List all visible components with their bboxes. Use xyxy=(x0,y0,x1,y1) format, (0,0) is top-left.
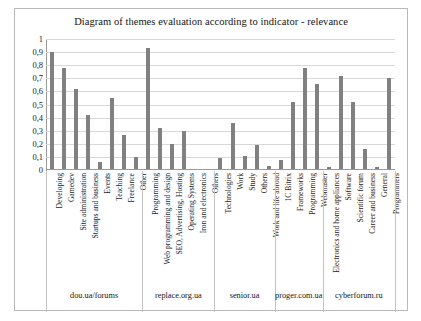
bar-column xyxy=(239,39,251,170)
bar xyxy=(363,149,367,170)
group-separator xyxy=(142,171,143,312)
bar-column xyxy=(371,39,383,170)
bar xyxy=(122,135,126,170)
bar-column xyxy=(58,39,70,170)
bar-column xyxy=(299,39,311,170)
bar-column xyxy=(166,39,178,170)
bar-column xyxy=(311,39,323,170)
plot-area xyxy=(46,39,395,170)
bar xyxy=(170,144,174,170)
bar-column xyxy=(46,39,58,170)
bar xyxy=(86,115,90,170)
y-axis-tick-label: 1 xyxy=(39,34,43,44)
bar-column xyxy=(82,39,94,170)
y-axis-tick-label: 0,6 xyxy=(32,86,43,96)
bar-column xyxy=(94,39,106,170)
group-axis: dou.ua/forumsreplace.org.uasenior.uaprog… xyxy=(46,171,395,312)
bar xyxy=(243,156,247,170)
bar-column xyxy=(323,39,335,170)
bar xyxy=(74,89,78,170)
x-axis-line xyxy=(46,169,395,170)
bar-column xyxy=(202,39,214,170)
y-axis-tick-label: 0,7 xyxy=(32,73,43,83)
y-axis-tick-label: 0,9 xyxy=(32,47,43,57)
bar-column xyxy=(118,39,130,170)
y-axis-tick-label: 0,2 xyxy=(32,139,43,149)
bar xyxy=(291,102,295,170)
bar xyxy=(62,68,66,170)
bar-column xyxy=(106,39,118,170)
bar xyxy=(315,84,319,170)
bar-column xyxy=(251,39,263,170)
group-separator xyxy=(214,171,215,312)
y-axis-tick-label: 0,8 xyxy=(32,60,43,70)
bar xyxy=(351,102,355,170)
bar-column xyxy=(178,39,190,170)
group-label: senior.ua xyxy=(230,291,260,300)
bar-column xyxy=(70,39,82,170)
y-axis-tick-label: 0,4 xyxy=(32,113,43,123)
bar-column xyxy=(154,39,166,170)
bar-column xyxy=(227,39,239,170)
bar-column xyxy=(335,39,347,170)
y-axis-tick-label: 0,1 xyxy=(32,152,43,162)
y-axis-tick-labels: 10,90,80,70,60,50,40,30,20,10 xyxy=(15,39,43,170)
y-axis-tick-label: 0 xyxy=(39,165,43,175)
bar xyxy=(231,123,235,170)
bar xyxy=(50,52,54,170)
group-separator xyxy=(395,171,396,312)
bar xyxy=(255,145,259,170)
bar-column xyxy=(130,39,142,170)
chart-title: Diagram of themes evaluation according t… xyxy=(15,16,407,27)
bar xyxy=(146,48,150,170)
bar-column xyxy=(359,39,371,170)
group-label: proger.com.ua xyxy=(275,291,322,300)
y-axis-tick-label: 0,3 xyxy=(32,126,43,136)
chart-frame: Diagram of themes evaluation according t… xyxy=(14,8,408,311)
bar-column xyxy=(263,39,275,170)
group-separator xyxy=(323,171,324,312)
bar-column xyxy=(142,39,154,170)
y-axis-tick-label: 0,5 xyxy=(32,100,43,110)
bar-column xyxy=(347,39,359,170)
bar xyxy=(110,98,114,170)
bar xyxy=(158,128,162,170)
bar-column xyxy=(383,39,395,170)
bar xyxy=(182,131,186,170)
bar-column xyxy=(275,39,287,170)
group-label: replace.org.ua xyxy=(155,291,202,300)
bar xyxy=(339,76,343,170)
group-label: cyberforum.ru xyxy=(335,291,383,300)
bar-column xyxy=(287,39,299,170)
bar-column xyxy=(190,39,202,170)
bar xyxy=(387,78,391,170)
bar-column xyxy=(214,39,226,170)
group-label: dou.ua/forums xyxy=(70,291,118,300)
group-separator xyxy=(46,171,47,312)
bar xyxy=(303,68,307,170)
